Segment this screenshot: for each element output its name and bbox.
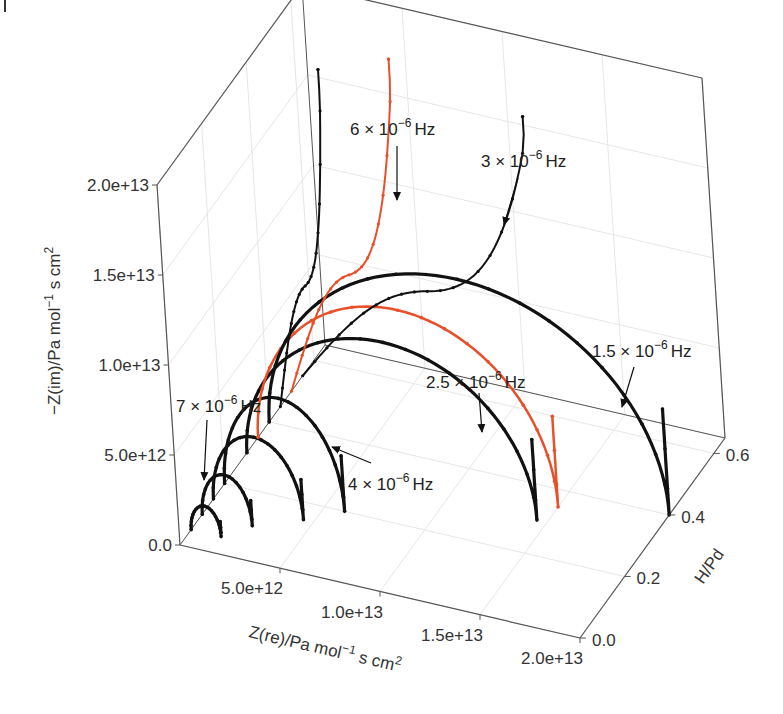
- svg-text:1.0e+13: 1.0e+13: [99, 356, 161, 375]
- y-axis-ticks: 0.00.20.40.6: [580, 446, 749, 650]
- svg-text:0.0: 0.0: [148, 536, 172, 555]
- x-axis-ticks: 5.0e+121.0e+131.5e+132.0e+13: [221, 568, 583, 668]
- svg-text:1.5e+13: 1.5e+13: [421, 626, 483, 645]
- svg-text:0.0: 0.0: [592, 631, 616, 650]
- svg-text:5.0e+12: 5.0e+12: [221, 579, 283, 598]
- nyquist-3d-chart: 0.05.0e+121.0e+131.5e+132.0e+13 5.0e+121…: [0, 0, 783, 714]
- z-axis-title: −Z(im)/Pa mol−1 s cm2: [42, 246, 64, 415]
- axes-box: [157, 0, 725, 638]
- svg-text:3 × 10−6Hz: 3 × 10−6Hz: [481, 148, 566, 171]
- svg-text:0.2: 0.2: [637, 569, 661, 588]
- x-axis-title: Z(re)/Pa mol−1 s cm2: [247, 619, 404, 675]
- svg-text:0.4: 0.4: [681, 508, 705, 527]
- gridlines: [157, 0, 725, 638]
- svg-text:7 × 10−6Hz: 7 × 10−6Hz: [176, 393, 261, 416]
- svg-text:5.0e+12: 5.0e+12: [104, 446, 166, 465]
- annotation-2-5e-6-hz: 2.5 × 10−6Hz: [426, 369, 525, 432]
- svg-text:6 × 10−6Hz: 6 × 10−6Hz: [350, 116, 435, 139]
- svg-text:4 × 10−6Hz: 4 × 10−6Hz: [348, 471, 433, 494]
- svg-text:2.0e+13: 2.0e+13: [87, 176, 149, 195]
- svg-text:2.0e+13: 2.0e+13: [521, 649, 583, 668]
- annotation-6e-6-hz: 6 × 10−6Hz: [350, 116, 435, 200]
- svg-text:1.5 × 10−6Hz: 1.5 × 10−6Hz: [592, 338, 691, 361]
- y-axis-title: H/Pd: [691, 545, 728, 587]
- z-axis-ticks: 0.05.0e+121.0e+131.5e+132.0e+13: [87, 176, 180, 555]
- annotation-4e-6-hz: 4 × 10−6Hz: [332, 447, 433, 494]
- svg-text:2.5 × 10−6Hz: 2.5 × 10−6Hz: [426, 369, 525, 392]
- svg-text:0.6: 0.6: [726, 446, 750, 465]
- svg-text:1.5e+13: 1.5e+13: [93, 266, 155, 285]
- svg-text:1.0e+13: 1.0e+13: [321, 603, 383, 622]
